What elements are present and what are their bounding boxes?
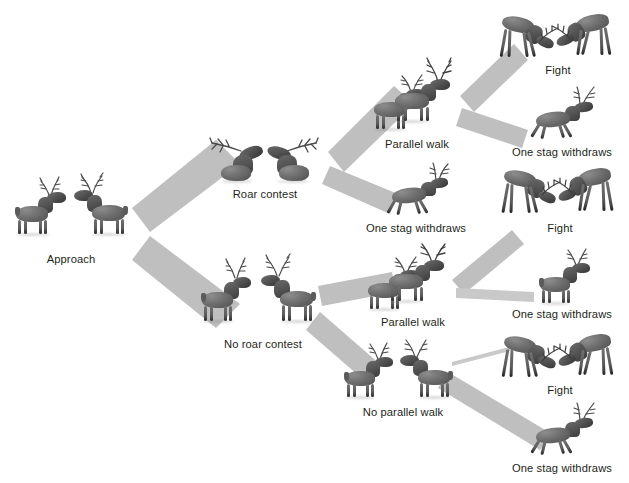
deer-leg bbox=[229, 306, 232, 321]
deer-figure bbox=[199, 269, 253, 321]
deer-tail bbox=[344, 372, 349, 381]
deer-leg bbox=[606, 347, 614, 375]
deer-shadow bbox=[345, 396, 375, 399]
node-one-stag-withdraws-pw-bottom[interactable]: One stag withdraws bbox=[498, 258, 626, 320]
deer-body bbox=[202, 292, 233, 308]
deer-leg bbox=[94, 219, 97, 234]
deer-figure bbox=[14, 186, 68, 234]
deer-figure bbox=[386, 73, 452, 121]
node-label: One stag withdraws bbox=[512, 145, 612, 158]
deer-body bbox=[395, 93, 429, 109]
deer-body bbox=[279, 165, 309, 181]
node-label: One stag withdraws bbox=[366, 221, 466, 234]
deer-shadow bbox=[280, 320, 314, 323]
deer-leg bbox=[121, 219, 124, 234]
deer-tail bbox=[311, 292, 316, 301]
deer-leg bbox=[204, 306, 207, 321]
deer-figure bbox=[72, 184, 128, 234]
node-label: Fight bbox=[547, 221, 572, 234]
approach-artwork bbox=[10, 185, 132, 252]
deer-shadow bbox=[16, 233, 50, 236]
deer-leg bbox=[397, 107, 400, 121]
deer-shadow bbox=[389, 300, 423, 303]
deer-leg bbox=[502, 349, 510, 377]
deer-leg bbox=[508, 30, 512, 57]
node-fight-bottom[interactable]: Fight bbox=[500, 334, 620, 396]
deer-leg bbox=[530, 123, 540, 137]
deer-leg bbox=[562, 290, 565, 303]
deer-leg bbox=[604, 27, 612, 55]
antler-icon bbox=[552, 343, 574, 361]
deer-leg bbox=[282, 305, 285, 321]
deer-tail bbox=[539, 278, 544, 287]
parallel-walk-artwork bbox=[358, 256, 468, 315]
deer-leg bbox=[404, 107, 407, 121]
fight-artwork bbox=[498, 14, 618, 63]
deer-leg bbox=[446, 383, 449, 397]
deer-leg bbox=[116, 219, 119, 234]
deer-leg bbox=[398, 287, 401, 301]
deer-shadow bbox=[277, 180, 309, 183]
node-fight-middle[interactable]: Fight bbox=[500, 168, 620, 234]
deer-figure bbox=[536, 257, 590, 303]
deer-leg bbox=[347, 384, 350, 397]
antler-icon bbox=[550, 23, 572, 41]
node-roar-contest[interactable]: Roar contest bbox=[195, 128, 335, 200]
deer-leg bbox=[567, 290, 570, 303]
node-one-stag-withdraws-roar[interactable]: One stag withdraws bbox=[352, 172, 480, 234]
deer-leg bbox=[44, 220, 47, 234]
deer-leg bbox=[304, 305, 307, 321]
deer-figure bbox=[380, 255, 446, 301]
deer-figure bbox=[554, 331, 614, 379]
deer-shadow bbox=[395, 120, 429, 123]
deer-leg bbox=[510, 350, 514, 377]
deer-leg bbox=[420, 287, 423, 301]
deer-leg bbox=[391, 287, 394, 301]
node-approach[interactable]: Approach bbox=[10, 185, 132, 265]
deer-body bbox=[16, 206, 48, 222]
node-label: Fight bbox=[545, 63, 570, 76]
deer-shadow bbox=[92, 233, 126, 236]
deer-leg bbox=[426, 383, 429, 397]
deer-shadow bbox=[540, 302, 570, 305]
node-one-stag-withdraws-pw-top[interactable]: One stag withdraws bbox=[498, 96, 626, 158]
fleeing-stag-artwork bbox=[352, 172, 480, 221]
deer-figure bbox=[261, 133, 317, 181]
node-label: No parallel walk bbox=[363, 405, 444, 418]
node-fight-top[interactable]: Fight bbox=[498, 14, 618, 76]
deer-tail bbox=[448, 371, 453, 380]
deer-leg bbox=[530, 439, 540, 453]
node-parallel-walk-bottom[interactable]: Parallel walk bbox=[358, 256, 468, 328]
deer-leg bbox=[542, 290, 545, 303]
deer-leg bbox=[509, 184, 513, 213]
node-no-parallel-walk[interactable]: No parallel walk bbox=[336, 344, 470, 418]
deer-body bbox=[92, 205, 125, 221]
fleeing-stag-artwork bbox=[498, 96, 626, 145]
deer-leg bbox=[24, 220, 27, 234]
deer-leg bbox=[501, 183, 509, 213]
node-no-roar-contest[interactable]: No roar contest bbox=[193, 262, 333, 350]
deer-body bbox=[280, 291, 313, 307]
parallel-walk-artwork bbox=[364, 72, 470, 137]
node-label: Approach bbox=[47, 252, 96, 265]
deer-leg bbox=[370, 296, 373, 309]
node-one-stag-withdraws-npw[interactable]: One stag withdraws bbox=[498, 412, 626, 474]
deer-leg bbox=[18, 220, 21, 234]
deer-tail bbox=[201, 293, 206, 302]
deer-leg bbox=[309, 305, 312, 321]
deer-leg bbox=[420, 107, 423, 121]
node-label: Fight bbox=[547, 383, 572, 396]
deer-leg bbox=[420, 383, 423, 397]
node-label: No roar contest bbox=[224, 337, 302, 350]
deer-figure bbox=[554, 165, 614, 215]
deer-leg bbox=[376, 296, 379, 309]
node-parallel-walk-top[interactable]: Parallel walk bbox=[364, 72, 470, 150]
roar-contest-artwork bbox=[195, 128, 335, 187]
deer-leg bbox=[39, 220, 42, 234]
deer-leg bbox=[602, 348, 606, 375]
node-label: Parallel walk bbox=[385, 137, 449, 150]
deer-body bbox=[389, 274, 423, 289]
deer-shadow bbox=[418, 396, 450, 399]
deer-leg bbox=[288, 305, 291, 321]
no-roar-contest-artwork bbox=[193, 262, 333, 337]
